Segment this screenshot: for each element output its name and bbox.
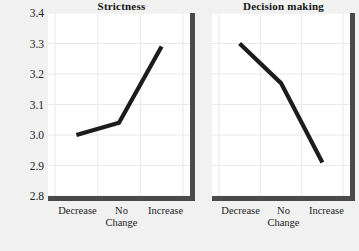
- x-axis-tick-label: Decrease: [221, 205, 259, 216]
- chart-figure: Peer orientation 2.82.93.03.13.23.33.4 S…: [0, 0, 359, 251]
- panel-decision-making: Decision making DecreaseNoIncrease Chang…: [212, 13, 355, 213]
- y-axis-tick-label: 2.8: [30, 190, 44, 202]
- x-axis-sublabel-text-strictness: Change: [105, 217, 137, 228]
- y-axis-tick-label: 2.9: [30, 160, 44, 172]
- x-axis-tick-label: No: [115, 205, 128, 216]
- panel-title-decision-making: Decision making: [212, 0, 355, 12]
- plot-area-strictness: [48, 13, 195, 201]
- panel-strictness: Strictness DecreaseNoIncrease Change: [48, 13, 195, 213]
- x-axis-sublabel-text-decision-making: Change: [267, 217, 299, 228]
- plot-svg-decision-making: [212, 13, 350, 196]
- y-axis-tick-label: 3.4: [30, 7, 44, 19]
- y-axis-ticks: 2.82.93.03.13.23.33.4: [16, 13, 44, 213]
- panel-title-strictness: Strictness: [48, 0, 195, 12]
- y-axis-tick-label: 3.0: [30, 129, 44, 141]
- plot-svg-strictness: [48, 13, 190, 196]
- x-axis-tick-label: Decrease: [58, 205, 96, 216]
- x-axis-tick-label: Increase: [148, 205, 183, 216]
- y-axis-tick-label: 3.2: [30, 68, 44, 80]
- y-axis-tick-label: 3.3: [30, 38, 44, 50]
- x-axis-tick-label: No: [277, 205, 290, 216]
- y-axis-tick-label: 3.1: [30, 99, 44, 111]
- data-line: [240, 44, 323, 163]
- plot-area-decision-making: [212, 13, 355, 201]
- x-axis-tick-label: Increase: [309, 205, 344, 216]
- data-line: [76, 47, 161, 135]
